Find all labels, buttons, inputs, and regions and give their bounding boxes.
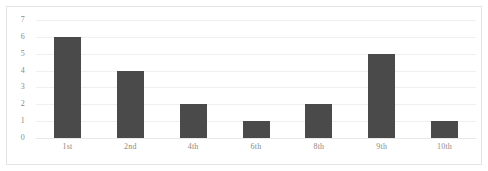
y-axis-tick-label: 2 — [21, 100, 25, 108]
bar — [243, 121, 270, 138]
x-axis-tick-label: 2nd — [124, 142, 137, 152]
bar — [117, 71, 144, 138]
axis-baseline — [36, 138, 476, 139]
x-axis-tick-label: 4th — [188, 142, 199, 152]
bars-layer — [36, 20, 476, 138]
bar-chart: 76543210 1st2nd4th6th8th9th10th — [0, 0, 488, 171]
x-axis-tick-label: 6th — [251, 142, 262, 152]
y-axis-tick-label: 1 — [21, 117, 25, 125]
bar — [180, 104, 207, 138]
bar — [368, 54, 395, 138]
x-axis-tick-label: 1st — [62, 142, 72, 152]
x-axis-tick-label: 8th — [313, 142, 324, 152]
y-axis-tick-label: 4 — [21, 67, 25, 75]
y-axis-tick-label: 3 — [21, 83, 25, 91]
y-axis-tick-label: 5 — [21, 50, 25, 58]
y-axis: 76543210 — [0, 20, 32, 138]
x-axis: 1st2nd4th6th8th9th10th — [36, 142, 476, 158]
y-axis-tick-label: 0 — [21, 134, 25, 142]
y-axis-tick-label: 7 — [21, 16, 25, 24]
y-axis-tick-label: 6 — [21, 33, 25, 41]
x-axis-tick-label: 9th — [376, 142, 387, 152]
bar — [431, 121, 458, 138]
bar — [305, 104, 332, 138]
bar — [54, 37, 81, 138]
x-axis-tick-label: 10th — [437, 142, 452, 152]
